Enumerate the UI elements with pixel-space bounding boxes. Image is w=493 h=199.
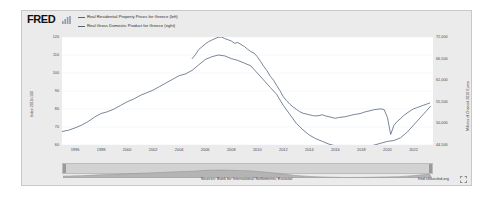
range-handle-right-icon[interactable] <box>429 164 432 173</box>
left-axis-tick-label: 80 <box>43 107 59 111</box>
right-axis-tick-label: 66,500 <box>436 57 456 61</box>
x-axis-tick-label: 2018 <box>351 147 371 152</box>
x-axis-tick-label: 2020 <box>377 147 397 152</box>
chart-legend: Real Residential Property Prices for Gre… <box>78 13 358 31</box>
source-note: Sources: Bank for International Settleme… <box>22 176 471 181</box>
fred-logo[interactable]: FRED <box>27 14 55 25</box>
x-axis-tick-label: 2004 <box>169 147 189 152</box>
right-axis-title: Millions of Chained 2010 Euros <box>466 81 470 131</box>
series-line-property-prices <box>62 55 430 145</box>
x-axis-tick-label: 1996 <box>65 147 85 152</box>
right-axis-tick-label: 72,000 <box>436 35 456 39</box>
legend-item-label: Real Gross Domestic Product for Greece (… <box>87 23 175 29</box>
plot-area[interactable] <box>62 37 433 145</box>
sparkline-icon <box>62 16 71 24</box>
x-axis-tick-label: 2014 <box>299 147 319 152</box>
legend-item-real-gdp[interactable]: Real Gross Domestic Product for Greece (… <box>78 22 358 30</box>
left-axis-tick-label: 100 <box>43 71 59 75</box>
x-axis-tick-label: 2006 <box>195 147 215 152</box>
gridlines <box>62 37 433 145</box>
right-axis-tick-label: 61,000 <box>436 78 456 82</box>
series-line-real-gdp <box>192 37 430 134</box>
chart-frame: FRED Real Residential Property Prices fo… <box>21 10 472 186</box>
right-axis-tick-label: 55,500 <box>436 100 456 104</box>
left-axis-tick-label: 110 <box>43 53 59 57</box>
x-axis-tick-label: 2000 <box>117 147 137 152</box>
chart-canvas <box>62 37 433 145</box>
left-axis-tick-label: 120 <box>43 35 59 39</box>
legend-item-property-prices[interactable]: Real Residential Property Prices for Gre… <box>78 13 358 21</box>
legend-line-swatch <box>78 26 85 27</box>
range-handle-left-icon[interactable] <box>63 164 66 173</box>
chart-header: FRED Real Residential Property Prices fo… <box>22 11 471 33</box>
x-axis-tick-label: 2002 <box>143 147 163 152</box>
legend-item-label: Real Residential Property Prices for Gre… <box>87 14 178 20</box>
x-axis-tick-label: 2008 <box>221 147 241 152</box>
left-axis-title: Index 2010=100 <box>30 91 34 117</box>
right-axis-tick-label: 50,000 <box>436 121 456 125</box>
x-axis-tick-label: 2010 <box>247 147 267 152</box>
left-axis-tick-label: 90 <box>43 89 59 93</box>
date-range-navigator[interactable] <box>62 163 433 174</box>
left-axis-tick-label: 70 <box>43 125 59 129</box>
legend-line-swatch <box>78 17 85 18</box>
left-axis-tick-label: 60 <box>43 143 59 147</box>
fred-url[interactable]: fred.stlouisfed.org <box>418 176 449 181</box>
x-axis-tick-label: 1998 <box>91 147 111 152</box>
right-axis-tick-label: 44,500 <box>436 143 456 147</box>
plot-container: Index 2010=100 Millions of Chained 2010 … <box>22 33 471 155</box>
chart-footer: Sources: Bank for International Settleme… <box>22 175 471 187</box>
x-axis-tick-label: 2022 <box>403 147 423 152</box>
x-axis-tick-label: 2016 <box>325 147 345 152</box>
fred-chart-widget: FRED Real Residential Property Prices fo… <box>0 0 493 199</box>
x-axis-tick-label: 2012 <box>273 147 293 152</box>
fullscreen-expand-icon[interactable] <box>460 176 467 183</box>
